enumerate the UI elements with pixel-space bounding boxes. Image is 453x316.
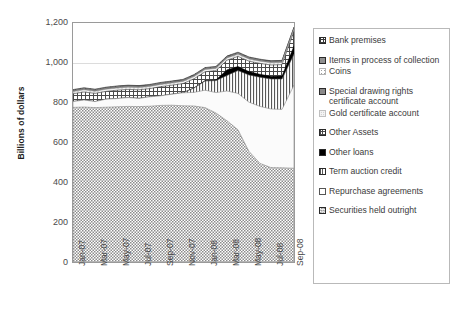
legend-label-gold-certificate: Gold certificate account bbox=[329, 108, 419, 119]
swatch-light-dot-icon bbox=[319, 110, 326, 117]
swatch-white-open-icon bbox=[319, 188, 326, 195]
swatch-mid-gray-icon bbox=[319, 88, 326, 95]
x-tick-jan-08: Jan-08 bbox=[210, 240, 219, 266]
chart-figure: Billions of dollars 1,200 1,000 800 600 … bbox=[0, 0, 453, 316]
swatch-solid-black-icon bbox=[319, 149, 326, 156]
y-tick-400: 400 bbox=[24, 178, 68, 187]
y-tick-0: 0 bbox=[24, 258, 68, 267]
legend-item-other-assets: Other Assets bbox=[319, 127, 445, 138]
legend-item-term-auction-credit: Term auction credit bbox=[319, 166, 445, 177]
x-tick-may-08: May-08 bbox=[254, 238, 263, 266]
legend-item-items-in-process: Items in process of collection bbox=[319, 55, 445, 66]
legend-label-items-in-process: Items in process of collection bbox=[329, 55, 439, 66]
legend-label-other-loans: Other loans bbox=[329, 147, 373, 158]
y-tick-800: 800 bbox=[24, 98, 68, 107]
x-tick-jul-08: Jul-08 bbox=[276, 243, 285, 266]
x-tick-jul-07: Jul-07 bbox=[144, 243, 153, 266]
legend-item-repurchase-agreements: Repurchase agreements bbox=[319, 186, 445, 197]
y-tick-1000: 1,000 bbox=[24, 58, 68, 67]
x-axis-tick-labels: Jan-07 Mar-07 May-07 Jul-07 Sep-07 Nov-0… bbox=[72, 266, 295, 316]
legend-item-gold-certificate: Gold certificate account bbox=[319, 108, 445, 119]
swatch-vertical-lines-icon bbox=[319, 168, 326, 175]
x-tick-mar-07: Mar-07 bbox=[100, 239, 109, 266]
legend-item-coins: Coins bbox=[319, 66, 445, 77]
y-tick-600: 600 bbox=[24, 138, 68, 147]
legend-item-sdr-certificate: Special drawing rights certificate accou… bbox=[319, 86, 445, 107]
x-tick-nov-07: Nov-07 bbox=[188, 239, 197, 266]
legend-label-sdr-certificate: Special drawing rights certificate accou… bbox=[329, 86, 445, 107]
legend-label-securities-held-outright: Securities held outright bbox=[329, 205, 416, 216]
x-tick-sep-07: Sep-07 bbox=[166, 239, 175, 266]
swatch-sparse-dot-icon bbox=[319, 68, 326, 75]
x-tick-may-07: May-07 bbox=[122, 238, 131, 266]
legend-item-securities-held-outright: Securities held outright bbox=[319, 205, 445, 216]
legend-item-other-loans: Other loans bbox=[319, 147, 445, 158]
legend-label-term-auction-credit: Term auction credit bbox=[329, 166, 402, 177]
y-tick-200: 200 bbox=[24, 218, 68, 227]
x-tick-sep-08: Sep-08 bbox=[296, 239, 305, 266]
legend-label-other-assets: Other Assets bbox=[329, 127, 378, 138]
swatch-solid-gray-icon bbox=[319, 57, 326, 64]
plot-area bbox=[72, 22, 295, 263]
legend-label-bank-premises: Bank premises bbox=[329, 35, 386, 46]
legend-label-repurchase-agreements: Repurchase agreements bbox=[329, 186, 423, 197]
x-tick-mar-08: Mar-08 bbox=[232, 239, 241, 266]
y-axis-tick-labels: 1,200 1,000 800 600 400 200 0 bbox=[24, 0, 68, 316]
x-tick-jan-07: Jan-07 bbox=[78, 240, 87, 266]
chart-legend: Bank premises Items in process of collec… bbox=[313, 28, 450, 284]
swatch-dense-checker-icon bbox=[319, 207, 326, 214]
legend-item-bank-premises: Bank premises bbox=[319, 35, 445, 46]
swatch-cross-box-icon bbox=[319, 37, 326, 44]
y-tick-1200: 1,200 bbox=[24, 18, 68, 27]
swatch-grid-hatch-icon bbox=[319, 129, 326, 136]
stacked-area-series bbox=[73, 23, 294, 262]
legend-label-coins: Coins bbox=[329, 66, 351, 77]
